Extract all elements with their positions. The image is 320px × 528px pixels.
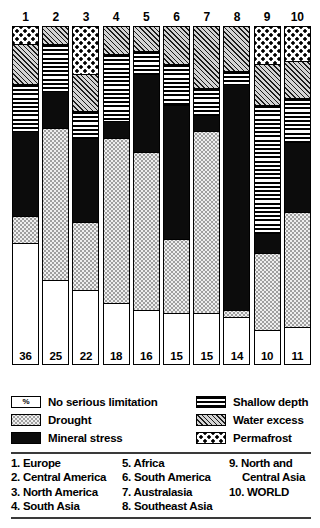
legend-item-permafrost: Permafrost — [196, 429, 308, 447]
legend-item-water: Water excess — [196, 411, 308, 429]
region-key-name: 8. Southeast Asia — [122, 500, 212, 512]
column-index-label: 10 — [284, 11, 311, 26]
region-key-item: 7. Australasia — [122, 485, 212, 499]
legend-column-right: Shallow depthWater excessPermafrost — [196, 393, 308, 447]
bar-value-label: 11 — [285, 350, 310, 362]
bar-segment-shallow — [285, 98, 310, 142]
region-key-item: 3. North America — [11, 485, 106, 499]
bar-segment-water — [285, 61, 310, 98]
bar-segment-mineral — [104, 121, 129, 138]
bar-segment-mineral — [164, 105, 189, 240]
bar-segment-drought — [255, 253, 280, 331]
legend-swatch-drought — [11, 414, 41, 426]
region-key-item: 5. Africa — [122, 456, 212, 470]
bar-segment-water — [194, 27, 219, 88]
bar-segment-water — [164, 27, 189, 64]
region-key-item: 1. Europe — [11, 456, 106, 470]
bar-segment-drought — [73, 222, 98, 289]
bar-segment-permafrost — [285, 27, 310, 61]
region-key-name: 5. Africa — [122, 457, 164, 469]
bar-segment-mineral — [285, 142, 310, 213]
region-key-item: 9. North andCentral Asia — [229, 456, 305, 485]
bar-segment-shallow — [73, 111, 98, 138]
bar-segment-shallow — [43, 44, 68, 91]
bar-segment-mineral — [194, 115, 219, 132]
divider-below-region-key — [11, 517, 311, 519]
legend-item-none: %No serious limitation — [11, 393, 158, 411]
bar-value-label: 18 — [104, 350, 129, 362]
region-key-name: 3. North America — [11, 486, 98, 498]
stacked-bar: 15 — [193, 26, 220, 365]
bar-column-2: 225 — [42, 11, 69, 386]
percent-symbol: % — [12, 396, 40, 408]
bar-value-label: 15 — [194, 350, 219, 362]
chart-legend: %No serious limitationDroughtMineral str… — [0, 393, 320, 450]
bar-value-label: 22 — [73, 350, 98, 362]
bar-segment-drought — [224, 310, 249, 317]
bar-segment-permafrost — [13, 27, 38, 44]
stacked-bar: 10 — [254, 26, 281, 365]
stacked-bar: 25 — [42, 26, 69, 365]
region-key-name: 1. Europe — [11, 457, 61, 469]
region-key-name: 7. Australasia — [122, 486, 192, 498]
bar-segment-drought — [13, 216, 38, 243]
bar-segment-water — [134, 27, 159, 51]
bar-segment-shallow — [13, 84, 38, 131]
bar-segment-shallow — [104, 54, 129, 121]
bar-column-10: 1011 — [284, 11, 311, 386]
bar-value-label: 36 — [13, 350, 38, 362]
bar-segment-water — [255, 64, 280, 104]
bar-column-4: 418 — [103, 11, 130, 386]
region-key-name: 2. Central America — [11, 471, 106, 483]
column-index-label: 7 — [193, 11, 220, 26]
bar-column-7: 715 — [193, 11, 220, 386]
region-key-name: 6. South America — [122, 471, 211, 483]
legend-item-drought: Drought — [11, 411, 158, 429]
bar-column-6: 615 — [163, 11, 190, 386]
bar-value-label: 10 — [255, 350, 280, 362]
region-key-name-continued: Central Asia — [229, 470, 305, 484]
bar-column-3: 322 — [72, 11, 99, 386]
legend-swatch-water — [196, 414, 226, 426]
bar-segment-none — [13, 243, 38, 364]
bar-segment-water — [43, 27, 68, 44]
region-key-item: 6. South America — [122, 470, 212, 484]
legend-label: Shallow depth — [233, 396, 308, 408]
bar-segment-water — [13, 44, 38, 84]
stacked-bar: 16 — [133, 26, 160, 365]
region-key-column-2: 5. Africa6. South America7. Australasia8… — [122, 456, 212, 514]
region-key-item: 8. Southeast Asia — [122, 499, 212, 513]
bar-segment-permafrost — [73, 27, 98, 74]
region-key-item: 4. South Asia — [11, 499, 106, 513]
column-index-label: 3 — [72, 11, 99, 26]
column-index-label: 6 — [163, 11, 190, 26]
stacked-bar: 18 — [103, 26, 130, 365]
bar-segment-drought — [104, 138, 129, 303]
legend-label: Mineral stress — [48, 432, 123, 444]
bar-segment-shallow — [194, 88, 219, 115]
region-key: 1. Europe2. Central America3. North Amer… — [0, 456, 320, 516]
bar-segment-drought — [134, 152, 159, 310]
bar-value-label: 14 — [224, 350, 249, 362]
column-index-label: 8 — [223, 11, 250, 26]
bar-value-label: 16 — [134, 350, 159, 362]
legend-label: Water excess — [233, 414, 304, 426]
region-key-name: 4. South Asia — [11, 500, 80, 512]
bar-column-1: 136 — [12, 11, 39, 386]
region-key-item: 2. Central America — [11, 470, 106, 484]
bar-segment-mineral — [134, 74, 159, 152]
region-key-item: 10. WORLD — [229, 485, 305, 499]
bar-segment-mineral — [13, 131, 38, 215]
region-key-column-1: 1. Europe2. Central America3. North Amer… — [11, 456, 106, 514]
legend-swatch-permafrost — [196, 432, 226, 444]
bar-column-5: 516 — [133, 11, 160, 386]
stacked-bar-chart: 1362253224185166157158149101011 — [0, 0, 320, 392]
bar-segment-permafrost — [255, 27, 280, 64]
stacked-bar: 11 — [284, 26, 311, 365]
bar-segment-water — [104, 27, 129, 54]
stacked-bar: 22 — [72, 26, 99, 365]
legend-swatch-none: % — [11, 396, 41, 408]
column-index-label: 1 — [12, 11, 39, 26]
legend-swatch-shallow — [196, 396, 226, 408]
bar-segment-mineral — [224, 84, 249, 310]
